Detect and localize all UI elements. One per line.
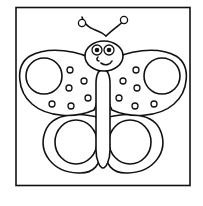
pupil-right [107,48,112,53]
butterfly-body [96,70,110,168]
antenna-left [82,17,106,36]
wing-dot [85,95,91,101]
wing-dot [81,78,87,84]
lower-wing-left [43,115,101,174]
wing-dot [134,85,140,91]
wing-dot [120,78,126,84]
antenna-right-tip [120,16,127,23]
butterfly-head [85,41,123,71]
wing-dot [66,85,72,91]
pupil-left [95,48,100,53]
wing-dot [67,67,73,73]
wing-dot [49,101,55,107]
wing-dot [133,67,139,73]
wing-dot [68,103,74,109]
antenna-left-tip [78,19,85,26]
wing-dot [132,103,138,109]
butterfly-drawing [0,0,203,206]
wing-dot [151,101,157,107]
wing-dot [116,95,122,101]
lower-wing-right [105,115,163,174]
